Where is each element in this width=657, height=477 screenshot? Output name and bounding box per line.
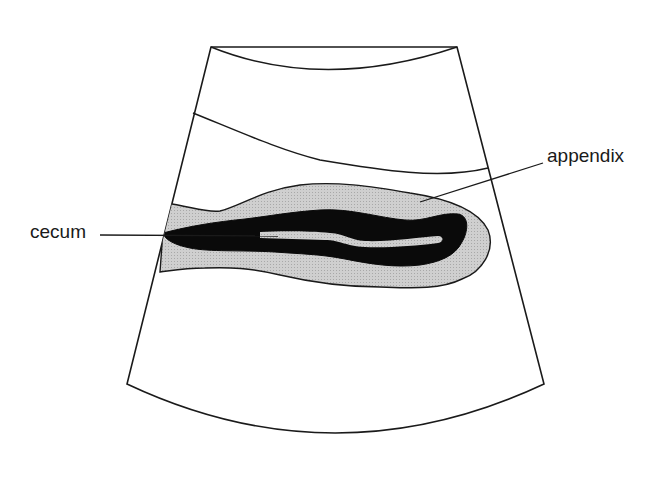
label-appendix: appendix	[547, 146, 624, 165]
ultrasound-diagram	[0, 0, 657, 477]
label-cecum: cecum	[30, 222, 86, 241]
